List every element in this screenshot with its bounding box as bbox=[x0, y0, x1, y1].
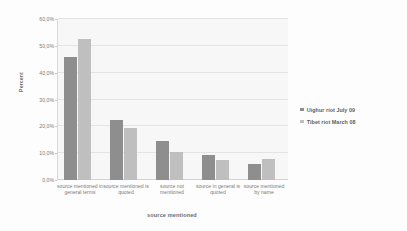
bar[interactable] bbox=[216, 160, 229, 180]
y-axis-tick-label: 60,0% bbox=[24, 16, 54, 22]
y-axis-tick-label: 20,0% bbox=[24, 123, 54, 129]
legend-swatch-icon bbox=[300, 120, 304, 124]
y-axis-tick-label: 0,0% bbox=[24, 177, 54, 183]
bar[interactable] bbox=[262, 159, 275, 180]
x-axis-tick-label: source mentioned in general terms bbox=[57, 183, 103, 196]
y-axis-tick-label: 30,0% bbox=[24, 97, 54, 103]
bar-group bbox=[196, 19, 242, 180]
bar-group bbox=[150, 19, 196, 180]
y-axis-tick-mark bbox=[55, 180, 57, 181]
bar-group bbox=[58, 19, 104, 180]
x-axis-tick-labels: source mentioned in general termssource … bbox=[57, 183, 287, 211]
bar[interactable] bbox=[248, 164, 261, 180]
bar-group bbox=[104, 19, 150, 180]
bar-chart: Percent 60,0%50,0%40,0%30,0%20,0%10,0%0,… bbox=[0, 0, 407, 231]
x-axis-tick-label: source not mentioned bbox=[149, 183, 195, 196]
chart-legend: Uighur riot July 09Tibet riot March 08 bbox=[300, 105, 356, 129]
legend-label: Tibet riot March 08 bbox=[307, 119, 356, 125]
y-axis-tick-label: 50,0% bbox=[24, 43, 54, 49]
bar[interactable] bbox=[156, 141, 169, 180]
y-axis-tick-label: 40,0% bbox=[24, 70, 54, 76]
bar[interactable] bbox=[124, 128, 137, 180]
x-axis-title: source mentioned bbox=[57, 212, 287, 218]
legend-entry[interactable]: Tibet riot March 08 bbox=[300, 117, 356, 126]
bar[interactable] bbox=[110, 120, 123, 180]
bar-group bbox=[242, 19, 288, 180]
y-axis-tick-label: 10,0% bbox=[24, 150, 54, 156]
x-axis-tick-label: source mentioned is quoted bbox=[103, 183, 149, 196]
legend-entry[interactable]: Uighur riot July 09 bbox=[300, 105, 356, 114]
bars-layer bbox=[58, 19, 288, 180]
legend-label: Uighur riot July 09 bbox=[307, 107, 355, 113]
bar[interactable] bbox=[202, 155, 215, 180]
bar[interactable] bbox=[64, 57, 77, 180]
y-axis-tick-labels: 60,0%50,0%40,0%30,0%20,0%10,0%0,0% bbox=[24, 14, 54, 186]
x-axis-tick-label: source mentioned by name bbox=[241, 183, 287, 196]
legend-swatch-icon bbox=[300, 108, 304, 112]
x-axis-tick-label: source in general is quoted bbox=[195, 183, 241, 196]
bar[interactable] bbox=[170, 152, 183, 180]
plot-area bbox=[57, 19, 288, 180]
bar[interactable] bbox=[78, 39, 91, 180]
